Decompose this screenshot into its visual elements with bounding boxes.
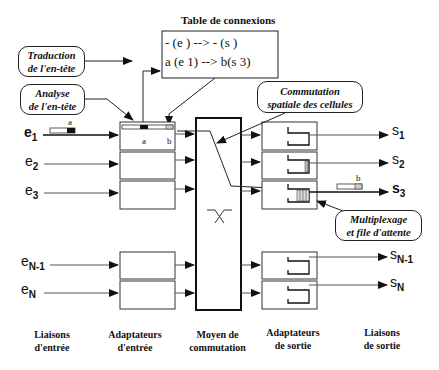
connection-table-row-2: a (e 1) --> b(s 3) — [165, 52, 251, 71]
column-label-line2: commutation — [180, 341, 255, 354]
input-link-en: eN — [21, 281, 36, 300]
input-link-e2: e2 — [25, 153, 38, 172]
input-adapter-n-1 — [120, 252, 175, 279]
column-label-line1: Adaptateurs — [100, 328, 170, 341]
callout-analyse-line2: de l'en-tête — [21, 100, 84, 113]
header-b-label: b — [167, 136, 172, 146]
input-link-e3: e3 — [25, 182, 38, 201]
input-adapter-n — [120, 281, 175, 309]
column-label-line1: Moyen de — [180, 328, 255, 341]
header-a-label: a — [142, 136, 146, 146]
callout-analyse-line1: Analyse — [21, 87, 84, 100]
callout-traduction: Traduction de l'en-tête — [18, 46, 85, 77]
column-label-line1: Adaptateurs — [258, 326, 328, 339]
output-link-sn-1: sN-1 — [390, 246, 413, 265]
column-label-line2: d'entrée — [22, 341, 82, 354]
callout-commutation-line1: Commutation — [258, 85, 362, 98]
output-link-s1: s1 — [392, 122, 405, 141]
column-label-line2: de sortie — [352, 339, 412, 352]
output-link-sn: sN — [390, 274, 404, 293]
column-label-line1: Liaisons — [352, 326, 412, 339]
switching-fabric — [196, 118, 241, 310]
column-label-output-adapters: Adaptateurs de sortie — [258, 326, 328, 352]
input-adapter-2 — [120, 152, 175, 179]
callout-traduction-line2: de l'en-tête — [19, 62, 84, 75]
connection-table-row-1: - (e ) --> - (s ) — [165, 33, 237, 52]
callout-multiplexage: Multiplexage et file d'attente — [335, 210, 422, 241]
callout-commutation: Commutation spatiale des cellules — [257, 81, 363, 113]
input-link-en-1: eN-1 — [21, 253, 45, 272]
callout-multiplexage-line1: Multiplexage — [336, 213, 421, 226]
output-cell-label: b — [356, 173, 361, 183]
column-label-output-links: Liaisons de sortie — [352, 326, 412, 352]
column-label-input-links: Liaisons d'entrée — [22, 328, 82, 354]
callout-traduction-line1: Traduction — [19, 49, 84, 62]
column-label-switching: Moyen de commutation — [180, 328, 255, 354]
input-link-e1: e1 — [24, 124, 37, 143]
callout-multiplexage-line2: et file d'attente — [336, 226, 421, 239]
connection-table-title: Table de connexions — [181, 14, 275, 26]
column-label-line2: de sortie — [258, 339, 328, 352]
input-cell-label: a — [68, 117, 72, 127]
callout-analyse: Analyse de l'en-tête — [20, 84, 85, 115]
output-link-s2: s2 — [392, 151, 405, 170]
column-label-line2: d'entrée — [100, 341, 170, 354]
output-link-s3: s3 — [392, 180, 405, 199]
column-label-line1: Liaisons — [22, 328, 82, 341]
callout-commutation-line2: spatiale des cellules — [258, 98, 362, 111]
input-adapter-3 — [120, 181, 175, 209]
column-label-input-adapters: Adaptateurs d'entrée — [100, 328, 170, 354]
